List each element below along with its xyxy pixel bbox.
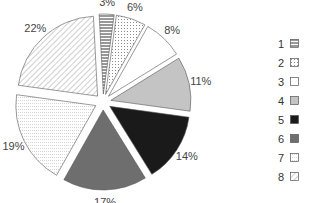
legend-swatch-icon xyxy=(290,115,299,124)
legend-swatch-icon xyxy=(290,172,299,181)
slice-label-1: 3% xyxy=(99,0,115,8)
legend-item-3: 3 xyxy=(270,72,299,91)
slice-label-4: 11% xyxy=(190,75,211,87)
legend-item-4: 4 xyxy=(270,91,299,110)
pie-chart: 3%6%8%11%14%17%19%22% xyxy=(0,0,230,203)
legend-swatch-icon xyxy=(290,153,299,162)
slice-label-8: 22% xyxy=(24,22,46,34)
legend-label: 7 xyxy=(270,152,284,164)
legend: 12345678 xyxy=(270,34,299,186)
legend-label: 5 xyxy=(270,114,284,126)
legend-item-6: 6 xyxy=(270,129,299,148)
legend-label: 3 xyxy=(270,76,284,88)
legend-label: 2 xyxy=(270,57,284,69)
slice-label-5: 14% xyxy=(176,150,198,162)
slice-label-2: 6% xyxy=(127,1,143,13)
legend-item-2: 2 xyxy=(270,53,299,72)
legend-swatch-icon xyxy=(290,134,299,143)
legend-item-1: 1 xyxy=(270,34,299,53)
legend-label: 6 xyxy=(270,133,284,145)
legend-swatch-icon xyxy=(290,77,299,86)
legend-item-5: 5 xyxy=(270,110,299,129)
slice-label-6: 17% xyxy=(94,196,116,203)
legend-swatch-icon xyxy=(290,58,299,67)
slice-label-7: 19% xyxy=(2,140,24,152)
legend-label: 8 xyxy=(270,171,284,183)
slice-label-3: 8% xyxy=(164,24,180,36)
legend-label: 1 xyxy=(270,38,284,50)
legend-item-7: 7 xyxy=(270,148,299,167)
legend-swatch-icon xyxy=(290,39,299,48)
legend-item-8: 8 xyxy=(270,167,299,186)
legend-swatch-icon xyxy=(290,96,299,105)
legend-label: 4 xyxy=(270,95,284,107)
